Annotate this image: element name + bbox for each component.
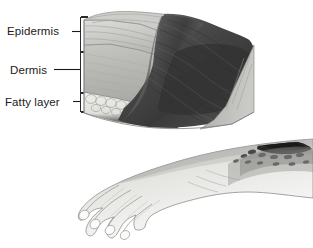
medical-illustration-artwork: [0, 0, 313, 248]
skin-cross-section-block: [84, 11, 254, 129]
illustration-figure: Epidermis Dermis Fatty layer: [0, 0, 313, 248]
hand-and-forearm: [77, 139, 313, 241]
label-leader-lines: [54, 32, 81, 102]
